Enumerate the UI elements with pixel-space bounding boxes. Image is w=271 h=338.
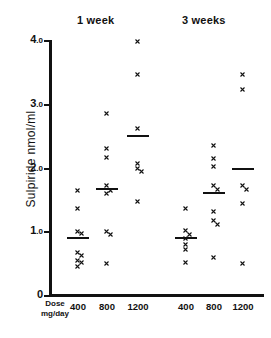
data-point — [104, 191, 108, 195]
y-tick-2 — [44, 168, 50, 170]
data-point — [75, 264, 79, 268]
data-point — [183, 247, 187, 251]
data-point — [79, 253, 83, 257]
x-caption-line-1: Dose — [45, 299, 65, 308]
data-point — [211, 164, 215, 168]
data-point — [211, 156, 215, 160]
data-point — [215, 187, 219, 191]
data-point — [104, 111, 108, 115]
data-point — [215, 222, 219, 226]
data-point — [135, 126, 139, 130]
x-axis-caption: Dose mg/day — [38, 299, 72, 318]
data-point — [183, 242, 187, 246]
group-heading-3-weeks: 3 weeks — [182, 14, 226, 26]
data-point — [211, 209, 215, 213]
data-point — [79, 231, 83, 235]
data-point — [211, 143, 215, 147]
data-point — [135, 161, 139, 165]
mean-line — [96, 188, 118, 190]
x-tick-label-5: 1200 — [232, 301, 253, 312]
mean-line — [127, 135, 149, 137]
data-point — [183, 206, 187, 210]
data-point — [104, 183, 108, 187]
mean-line — [175, 237, 197, 239]
data-point — [183, 228, 187, 232]
mean-line — [67, 237, 89, 239]
y-tick-3 — [44, 104, 50, 106]
data-point — [183, 260, 187, 264]
data-point — [104, 155, 108, 159]
x-tick-label-4: 800 — [206, 301, 222, 312]
x-tick-label-2: 1200 — [127, 301, 148, 312]
data-point — [75, 188, 79, 192]
scatter-plot-figure: 1 week 3 weeks 01.02.03.04.0 Sulpiride n… — [0, 0, 271, 338]
data-point — [211, 255, 215, 259]
x-tick-label-1: 800 — [99, 301, 115, 312]
x-tick-label-3: 400 — [178, 301, 194, 312]
data-point — [240, 201, 244, 205]
mean-line — [232, 168, 254, 170]
data-point — [135, 72, 139, 76]
data-point — [104, 146, 108, 150]
x-caption-line-2: mg/day — [41, 309, 69, 318]
mean-line — [203, 192, 225, 194]
data-point — [135, 39, 139, 43]
x-axis-line — [49, 294, 264, 297]
data-point — [211, 218, 215, 222]
y-tick-label-4: 4.0 — [30, 33, 43, 45]
data-point — [79, 260, 83, 264]
data-point — [240, 87, 244, 91]
data-point — [244, 187, 248, 191]
data-point — [104, 261, 108, 265]
y-axis-title: Sulpiride nmol/ml — [24, 74, 38, 244]
group-heading-1-week: 1 week — [77, 14, 114, 26]
data-point — [240, 72, 244, 76]
data-point — [240, 261, 244, 265]
data-point — [75, 206, 79, 210]
data-point — [139, 169, 143, 173]
data-point — [108, 232, 112, 236]
x-tick-label-0: 400 — [70, 301, 86, 312]
data-point — [135, 199, 139, 203]
y-tick-1 — [44, 231, 50, 233]
y-tick-4 — [44, 40, 50, 42]
y-tick-0 — [44, 295, 50, 297]
